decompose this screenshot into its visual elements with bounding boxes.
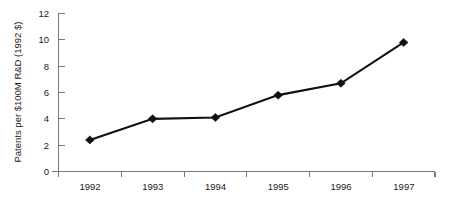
x-tick-label-1997: 1997 xyxy=(393,181,414,192)
y-tick-label-10: 10 xyxy=(38,34,49,45)
x-tick-label-1994: 1994 xyxy=(205,181,226,192)
y-tick-label-6: 6 xyxy=(44,87,49,98)
y-tick-label-2: 2 xyxy=(44,140,49,151)
y-tick-label-12: 12 xyxy=(38,8,49,19)
x-tick-label-1993: 1993 xyxy=(142,181,163,192)
x-tick-label-1992: 1992 xyxy=(79,181,100,192)
x-tick-label-1995: 1995 xyxy=(268,181,289,192)
y-tick-label-0: 0 xyxy=(44,166,49,177)
x-tick-label-1996: 1996 xyxy=(331,181,352,192)
y-tick-label-4: 4 xyxy=(44,113,49,124)
y-axis-title: Patents per $100M R&D (1992 $) xyxy=(12,22,23,163)
y-tick-label-8: 8 xyxy=(44,61,49,72)
line-chart: 12 10 8 6 4 2 0 1992 1993 1994 1995 1996… xyxy=(0,0,453,202)
chart-container: 12 10 8 6 4 2 0 1992 1993 1994 1995 1996… xyxy=(0,0,453,202)
